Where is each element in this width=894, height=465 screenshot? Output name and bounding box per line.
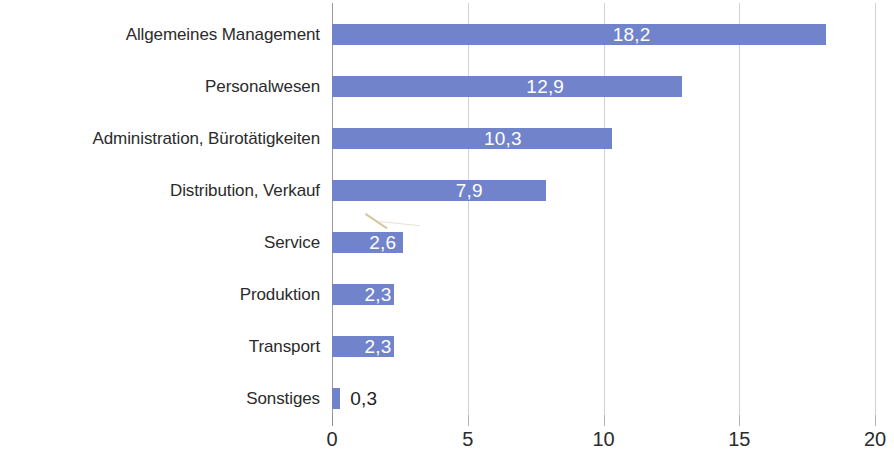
bar (332, 24, 826, 45)
x-tick-label-10: 10 (592, 428, 614, 451)
chart-row: Produktion2,3 (0, 263, 894, 315)
category-label: Distribution, Verkauf (20, 180, 320, 201)
bar-value-label: 0,3 (350, 388, 377, 409)
x-tick-label-5: 5 (462, 428, 473, 451)
category-label: Sonstiges (20, 388, 320, 409)
category-label: Produktion (20, 284, 320, 305)
bar-chart: Allgemeines Management18,2Personalwesen1… (0, 0, 894, 465)
bar-value-label: 12,9 (520, 76, 564, 97)
bar-value-label: 18,2 (606, 24, 650, 45)
bar-value-label: 2,6 (352, 232, 396, 253)
x-tick-label-0: 0 (326, 428, 337, 451)
bar-value-label: 2,3 (347, 336, 391, 357)
bar-value-label: 7,9 (439, 180, 483, 201)
category-label: Administration, Bürotätigkeiten (20, 128, 320, 149)
category-label: Service (20, 232, 320, 253)
chart-row: Distribution, Verkauf7,9 (0, 159, 894, 211)
chart-row: Service2,6 (0, 211, 894, 263)
bar-value-label: 10,3 (478, 128, 522, 149)
bar (332, 388, 340, 409)
category-label: Allgemeines Management (20, 24, 320, 45)
chart-row: Transport2,3 (0, 315, 894, 367)
category-label: Personalwesen (20, 76, 320, 97)
category-label: Transport (20, 336, 320, 357)
chart-row: Administration, Bürotätigkeiten10,3 (0, 107, 894, 159)
chart-row: Personalwesen12,9 (0, 55, 894, 107)
bar (332, 76, 682, 97)
chart-row: Allgemeines Management18,2 (0, 3, 894, 55)
bar-value-label: 2,3 (347, 284, 391, 305)
x-tick-label-20: 20 (864, 428, 886, 451)
chart-row: Sonstiges0,3 (0, 367, 894, 419)
bar (332, 128, 612, 149)
x-tick-label-15: 15 (728, 428, 750, 451)
